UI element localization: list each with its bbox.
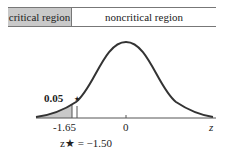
tick-label-crit: -1.65 (53, 121, 76, 133)
axis-variable-label: z (209, 121, 213, 133)
normal-curve-plot (0, 0, 227, 157)
alpha-label: 0.05 (44, 92, 63, 104)
star-icon: ★ (74, 95, 80, 103)
normal-curve (36, 42, 213, 117)
tick-label-zero: 0 (123, 121, 129, 133)
zstar-value-label: z★ = −1.50 (60, 137, 112, 150)
